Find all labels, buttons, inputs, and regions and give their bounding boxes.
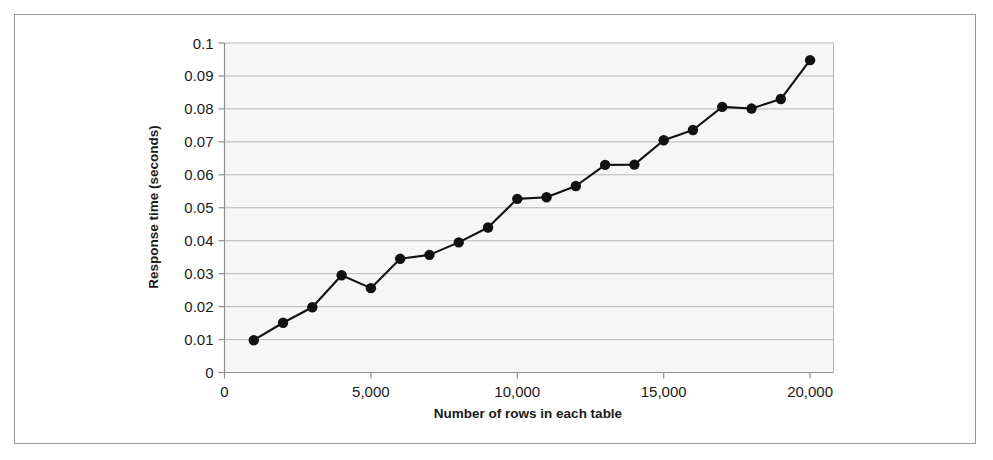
x-tick-label: 20,000 xyxy=(787,383,833,400)
data-point-marker xyxy=(541,192,551,202)
y-tick-label: 0.01 xyxy=(184,331,213,348)
data-point-marker xyxy=(805,55,815,65)
y-tick-label: 0 xyxy=(205,364,213,381)
x-tick-label: 10,000 xyxy=(494,383,540,400)
y-tick-label: 0.04 xyxy=(184,232,213,249)
y-tick-label: 0.05 xyxy=(184,199,213,216)
data-point-marker xyxy=(366,283,376,293)
x-tick-label: 15,000 xyxy=(641,383,687,400)
data-point-marker xyxy=(600,160,610,170)
x-tick-labels-group: 05,00010,00015,00020,000 xyxy=(220,383,833,400)
data-point-marker xyxy=(395,254,405,264)
x-axis-title: Number of rows in each table xyxy=(434,406,623,421)
data-point-marker xyxy=(424,250,434,260)
data-point-marker xyxy=(483,222,493,232)
data-point-marker xyxy=(658,135,668,145)
data-point-marker xyxy=(454,237,464,247)
y-axis-title: Response time (seconds) xyxy=(146,125,161,289)
y-tick-label: 0.02 xyxy=(184,298,213,315)
line-chart: 05,00010,00015,00020,000 00.010.020.030.… xyxy=(0,0,993,460)
data-point-marker xyxy=(688,125,698,135)
data-point-marker xyxy=(249,335,259,345)
y-tick-label: 0.07 xyxy=(184,133,213,150)
data-point-marker xyxy=(571,181,581,191)
data-point-marker xyxy=(746,103,756,113)
data-point-marker xyxy=(307,302,317,312)
y-tick-labels-group: 00.010.020.030.040.050.060.070.080.090.1 xyxy=(184,35,213,382)
y-tick-label: 0.1 xyxy=(193,35,214,52)
data-point-marker xyxy=(278,318,288,328)
x-tick-label: 5,000 xyxy=(352,383,390,400)
data-point-marker xyxy=(776,94,786,104)
y-tick-label: 0.09 xyxy=(184,67,213,84)
y-tick-label: 0.06 xyxy=(184,166,213,183)
data-point-marker xyxy=(629,159,639,169)
data-point-marker xyxy=(336,270,346,280)
y-tick-label: 0.08 xyxy=(184,100,213,117)
figure-container: 05,00010,00015,00020,000 00.010.020.030.… xyxy=(0,0,993,460)
data-point-marker xyxy=(717,102,727,112)
x-tick-label: 0 xyxy=(220,383,228,400)
y-tick-label: 0.03 xyxy=(184,265,213,282)
data-point-marker xyxy=(512,194,522,204)
